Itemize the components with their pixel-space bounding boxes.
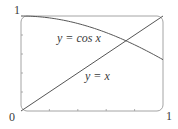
origin-tick-label: 0 (9, 111, 15, 123)
y-max-tick-label: 1 (14, 4, 20, 16)
x-max-tick-label: 1 (166, 110, 172, 122)
identity-line-label: y = x (85, 70, 110, 82)
plot-area (0, 0, 178, 129)
chart-container: 1 0 1 y = cos x y = x (0, 0, 178, 129)
cos-curve-label: y = cos x (57, 32, 101, 44)
